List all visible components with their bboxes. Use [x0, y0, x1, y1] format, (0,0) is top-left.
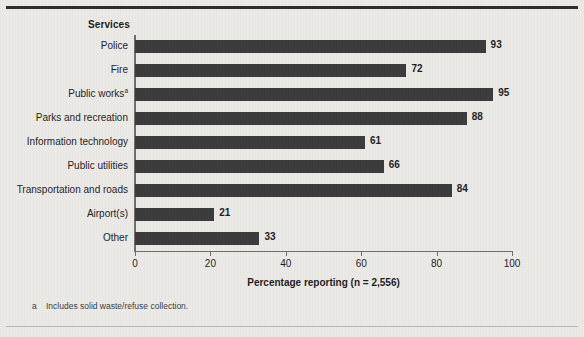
bar — [135, 136, 365, 149]
bar — [135, 232, 259, 245]
category-label: Information technology — [27, 136, 128, 148]
category-label: Public worksa — [68, 88, 128, 100]
bar — [135, 160, 384, 173]
services-column-header: Services — [88, 19, 130, 30]
bar-value-label: 88 — [472, 111, 483, 122]
category-label: Police — [101, 40, 128, 52]
top-rule-divider — [6, 6, 578, 9]
x-tick-label: 80 — [431, 258, 442, 269]
bar-row: Public utilities66 — [135, 155, 512, 179]
bar-row: Public worksa95 — [135, 83, 512, 107]
x-axis-line — [134, 251, 513, 252]
bar-value-label: 93 — [491, 39, 502, 50]
x-tick-label: 0 — [132, 258, 138, 269]
x-tick-label: 100 — [504, 258, 521, 269]
bar-value-label: 33 — [264, 231, 275, 242]
footnote-marker: a — [32, 301, 46, 311]
category-label: Other — [103, 232, 128, 244]
bar — [135, 112, 467, 125]
bar-row: Police93 — [135, 35, 512, 59]
x-tick-label: 60 — [356, 258, 367, 269]
bar-row: Transportation and roads84 — [135, 179, 512, 203]
bottom-rule-divider — [6, 326, 578, 327]
category-label: Transportation and roads — [17, 184, 128, 196]
bar-value-label: 95 — [498, 87, 509, 98]
bar — [135, 64, 406, 77]
x-tick-mark — [361, 251, 362, 256]
x-tick-mark — [512, 251, 513, 256]
bar-value-label: 61 — [370, 135, 381, 146]
x-tick-label: 40 — [280, 258, 291, 269]
footnote-text: Includes solid waste/refuse collection. — [46, 301, 188, 311]
bar — [135, 40, 486, 53]
figure-container: Services 020406080100 Police93Fire72Publ… — [0, 0, 584, 337]
category-label: Airport(s) — [87, 208, 128, 220]
bar-row: Other33 — [135, 227, 512, 251]
category-footnote-marker: a — [124, 87, 128, 94]
category-label: Public utilities — [67, 160, 128, 172]
plot-area: 020406080100 Police93Fire72Public worksa… — [135, 35, 512, 251]
bar-value-label: 72 — [411, 63, 422, 74]
bar — [135, 184, 452, 197]
x-tick-mark — [135, 251, 136, 256]
x-tick-mark — [210, 251, 211, 256]
bar-value-label: 84 — [457, 183, 468, 194]
bar — [135, 88, 493, 101]
bar-row: Parks and recreation88 — [135, 107, 512, 131]
footnote: aIncludes solid waste/refuse collection. — [32, 301, 188, 311]
x-tick-label: 20 — [205, 258, 216, 269]
bar-row: Fire72 — [135, 59, 512, 83]
bar-value-label: 66 — [389, 159, 400, 170]
category-label: Fire — [111, 64, 128, 76]
bar-row: Airport(s)21 — [135, 203, 512, 227]
x-axis-title: Percentage reporting (n = 2,556) — [135, 277, 512, 288]
bar-row: Information technology61 — [135, 131, 512, 155]
x-tick-mark — [286, 251, 287, 256]
bar — [135, 208, 214, 221]
bar-value-label: 21 — [219, 207, 230, 218]
x-tick-mark — [437, 251, 438, 256]
category-label: Parks and recreation — [36, 112, 128, 124]
